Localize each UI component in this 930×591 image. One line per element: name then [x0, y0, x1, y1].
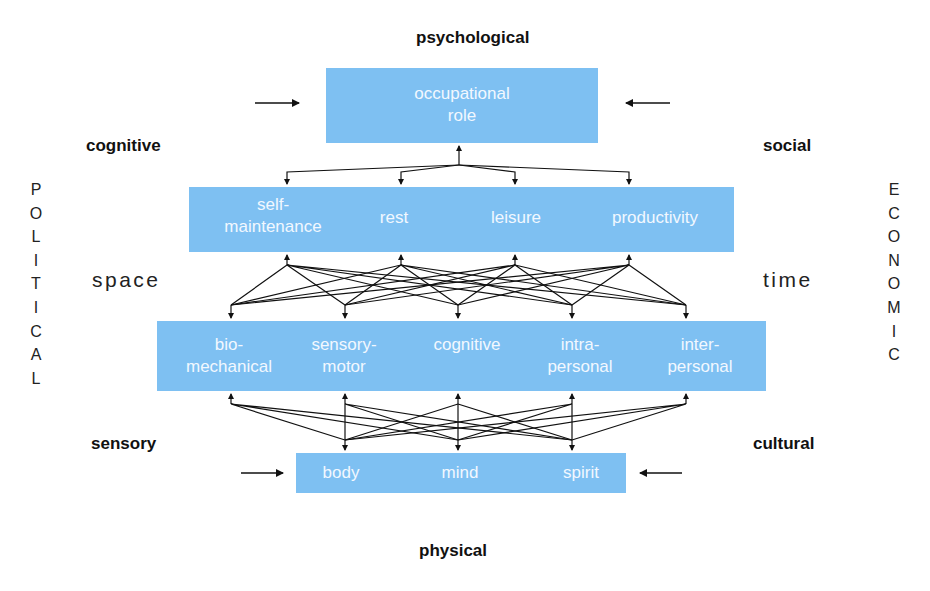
- connector-network: [0, 0, 930, 591]
